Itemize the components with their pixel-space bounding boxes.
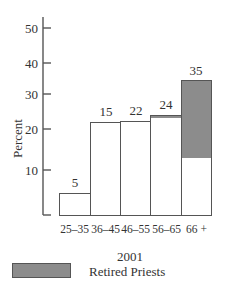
- y-tick-10: 10: [16, 164, 38, 177]
- bar-36-45: [90, 122, 121, 216]
- value-label-56-65: 24: [151, 98, 181, 111]
- retired-segment-66-plus: [182, 81, 211, 158]
- y-tick-50: 50: [16, 22, 38, 35]
- y-axis-title: Percent: [10, 119, 26, 158]
- x-label-66-plus: 66 +: [181, 223, 212, 235]
- x-label-46-55: 46–55: [120, 223, 151, 235]
- bar-56-65: [150, 115, 182, 216]
- bar-66-plus: [181, 80, 212, 216]
- value-label-46-55: 22: [121, 104, 151, 117]
- bar-46-55: [120, 121, 151, 216]
- y-tick-40: 40: [16, 57, 38, 70]
- x-label-25-35: 25–35: [59, 223, 90, 235]
- x-label-36-45: 36–45: [90, 223, 121, 235]
- legend-swatch-retired: [12, 263, 71, 278]
- bar-25-35: [59, 193, 91, 216]
- legend-label-retired: Retired Priests: [89, 264, 165, 280]
- value-label-66-plus: 35: [181, 64, 211, 77]
- y-tick-30: 30: [16, 88, 38, 101]
- value-label-36-45: 15: [91, 105, 121, 118]
- retired-segment-56-65: [151, 116, 181, 118]
- x-label-56-65: 56–65: [151, 223, 182, 235]
- value-label-25-35: 5: [60, 176, 90, 189]
- year-label: 2001: [110, 249, 150, 265]
